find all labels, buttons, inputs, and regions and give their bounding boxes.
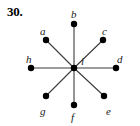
vertex-label-d: d — [117, 54, 123, 65]
vertex-label-h: h — [26, 54, 32, 65]
vertex-label-c: c — [102, 26, 107, 37]
graph-vertex-h — [28, 65, 34, 71]
graph-vertex-a — [43, 37, 49, 43]
vertex-label-a: a — [40, 26, 46, 37]
graph-vertex-e — [101, 93, 107, 99]
graph-edge-i-g — [46, 68, 74, 96]
vertex-label-b: b — [71, 9, 77, 20]
graph-edge-i-e — [74, 68, 104, 96]
graph-vertex-b — [71, 21, 77, 27]
graph-edge-i-a — [46, 40, 74, 68]
graph-vertex-c — [100, 37, 106, 43]
vertex-label-g: g — [40, 106, 46, 117]
graph-vertex-i — [71, 65, 77, 71]
vertex-label-e: e — [106, 106, 111, 117]
vertex-label-i: i — [81, 56, 84, 67]
figure-container: 30. abcdefghi — [0, 0, 140, 126]
graph-vertex-d — [113, 65, 119, 71]
graph-vertex-g — [43, 93, 49, 99]
graph-edge-i-c — [74, 40, 103, 68]
vertex-label-f: f — [71, 112, 74, 123]
graph-vertex-f — [71, 102, 77, 108]
